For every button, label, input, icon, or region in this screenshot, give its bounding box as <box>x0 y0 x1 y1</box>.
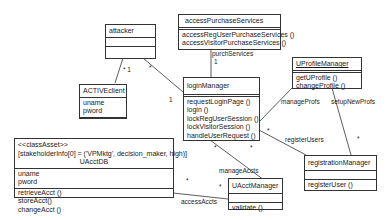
operation: lockVisitorSession () <box>187 123 256 132</box>
class-operations: getUProfile () changeProfile () <box>293 73 361 92</box>
multiplicity-star-a: * <box>267 127 270 134</box>
operation: retrieveAcct () <box>18 189 170 198</box>
class-uprofile-manager[interactable]: UProfileManager getUProfile () changePro… <box>292 57 362 89</box>
class-name: UAcctDB <box>18 158 170 167</box>
multiplicity-star-e: * <box>186 177 189 184</box>
operation: accessVisitorPurchaseServices () <box>182 39 277 48</box>
class-name: ACTIVEclient <box>80 85 126 98</box>
class-operations: retrieveAcct () storeAcct() changeAcct (… <box>15 189 173 216</box>
operation: changeAcct () <box>18 206 170 215</box>
class-access-purchase-services[interactable]: accessPurchaseServices accessRegUserPurc… <box>178 14 281 50</box>
multiplicity-attacker-login: * <box>149 64 152 71</box>
label-purch-services: purchServices <box>212 50 253 57</box>
multiplicity-star-f: * <box>219 183 222 190</box>
operation: storeAcct() <box>18 197 170 206</box>
label-register-users: registerUsers <box>285 136 324 143</box>
class-attributes <box>305 171 376 180</box>
label-manage-accts: manageAccts <box>219 167 258 174</box>
attribute: uname <box>18 170 170 179</box>
class-active-client[interactable]: ACTIVEclient uname pword <box>79 84 127 119</box>
class-login-manager[interactable]: loginManager requestLoginPage () login (… <box>183 77 260 141</box>
class-attacker[interactable]: attacker <box>105 24 156 59</box>
class-name: accessPurchaseServices <box>179 15 280 28</box>
multiplicity-star-d: * <box>250 144 253 151</box>
class-operations: requestLoginPage () login () lockRegUser… <box>184 97 259 142</box>
class-name: loginManager <box>184 78 259 95</box>
class-attributes: uname pword <box>15 169 173 189</box>
class-name: attacker <box>106 25 155 38</box>
multiplicity-attacker-client: * 1 <box>123 66 131 73</box>
class-operations <box>106 47 155 55</box>
multiplicity-star-c: * <box>214 144 217 151</box>
class-uacct-db[interactable]: <<classAsset>> [stakeholderInfo[0] = ('V… <box>14 138 174 198</box>
class-uacct-manager[interactable]: UAcctManager validate () <box>228 178 283 210</box>
multiplicity-purch-services: 1 <box>214 58 218 65</box>
class-attributes <box>106 38 155 47</box>
attribute: pword <box>83 107 123 116</box>
class-attributes: uname pword <box>80 98 126 118</box>
operation: getUProfile () <box>296 74 358 83</box>
label-setup-new-profs: setupNewProfs <box>331 98 375 105</box>
label-manage-profs: manageProfs <box>281 98 320 105</box>
operation: validate () <box>232 204 279 213</box>
tagged-value: [stakeholderInfo[0] = ('VPMktg', decisio… <box>18 150 170 159</box>
multiplicity-star-b: * <box>357 135 360 142</box>
class-registration-manager[interactable]: registrationManager registerUser () <box>304 155 377 191</box>
class-attributes <box>229 194 282 203</box>
attribute: pword <box>18 178 170 187</box>
stereotype: <<classAsset>> <box>18 141 170 150</box>
label-access-accts: accessAccts <box>181 198 217 205</box>
multiplicity-login-one: 1 <box>169 96 173 103</box>
operation: requestLoginPage () <box>187 98 256 107</box>
operation: handleUserRequest () <box>187 132 256 141</box>
class-operations <box>80 118 126 123</box>
class-operations: registerUser () <box>305 180 376 191</box>
class-operations: accessRegUserPurchaseServices () accessV… <box>179 30 280 49</box>
operation: changeProfile () <box>296 82 358 91</box>
operation: accessRegUserPurchaseServices () <box>182 31 277 40</box>
operation: registerUser () <box>308 181 373 190</box>
class-name: registrationManager <box>305 156 376 171</box>
class-name: UProfileManager <box>293 58 361 71</box>
operation: login () <box>187 106 256 115</box>
operation: lockRegUserSession () <box>187 115 256 124</box>
class-header: <<classAsset>> [stakeholderInfo[0] = ('V… <box>15 139 173 169</box>
class-name: UAcctManager <box>229 179 282 194</box>
class-operations: validate () <box>229 203 282 214</box>
attribute: uname <box>83 99 123 108</box>
